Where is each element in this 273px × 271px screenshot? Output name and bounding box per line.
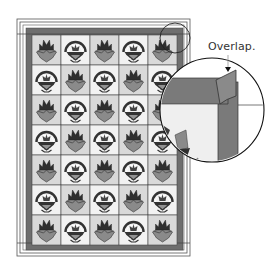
quilt-block-basket xyxy=(32,185,61,215)
quilt-block-tulip xyxy=(119,185,148,215)
quilt-block-tulip xyxy=(32,95,61,125)
quilt-block-tulip xyxy=(61,65,90,95)
quilt-block-tulip xyxy=(119,125,148,155)
quilt-block-basket xyxy=(119,35,148,65)
quilt-block-basket xyxy=(61,95,90,125)
quilt-block-tulip xyxy=(148,35,177,65)
quilt-block-tulip xyxy=(32,155,61,185)
overlap-label: Overlap. xyxy=(208,40,256,53)
quilt-block-basket xyxy=(90,125,119,155)
quilt-block-tulip xyxy=(61,125,90,155)
quilt-block-basket xyxy=(61,155,90,185)
quilt-block-tulip xyxy=(90,35,119,65)
quilt-block-basket xyxy=(32,125,61,155)
quilt-block-basket xyxy=(119,155,148,185)
quilt-block-tulip xyxy=(61,185,90,215)
quilt-block-basket xyxy=(90,65,119,95)
quilt-block-tulip xyxy=(90,95,119,125)
quilt-block-tulip xyxy=(148,155,177,185)
quilt-block-tulip xyxy=(32,215,61,245)
block-grid xyxy=(32,35,177,245)
quilt-block-tulip xyxy=(90,215,119,245)
quilt-block-tulip xyxy=(119,65,148,95)
quilt-block-basket xyxy=(61,215,90,245)
quilt-block-basket xyxy=(119,95,148,125)
quilt-block-tulip xyxy=(90,155,119,185)
quilt-block-tulip xyxy=(32,35,61,65)
quilt-block-basket xyxy=(119,215,148,245)
quilt-block-basket xyxy=(148,185,177,215)
quilt-block-basket xyxy=(90,185,119,215)
quilt-block-basket xyxy=(61,35,90,65)
quilt-block-tulip xyxy=(148,215,177,245)
quilt-block-basket xyxy=(32,65,61,95)
